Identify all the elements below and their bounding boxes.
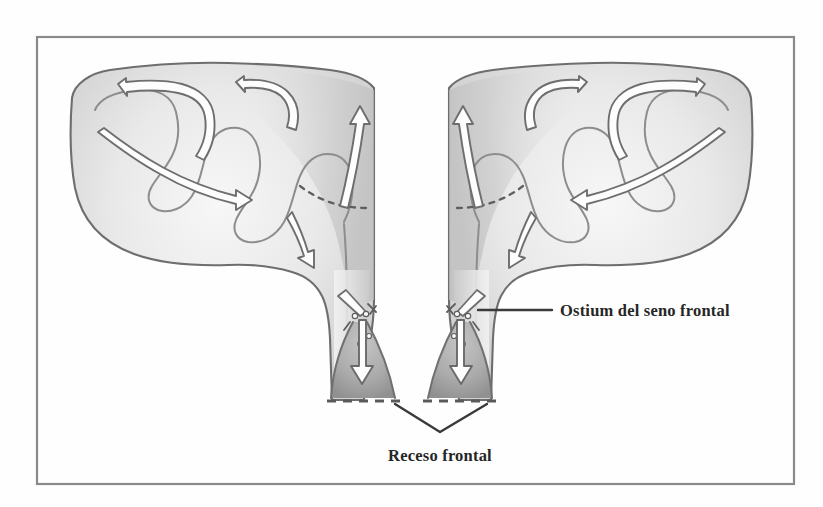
ostium-bead: [452, 334, 457, 339]
ostium-bead: [465, 313, 470, 318]
label-ostium-del-seno-frontal: Ostium del seno frontal: [560, 301, 730, 320]
frontal-sinus-diagram: Ostium del seno frontal Receso frontal: [0, 0, 823, 507]
ostium-bead: [454, 311, 459, 316]
label-receso-frontal: Receso frontal: [388, 446, 492, 465]
figure-container: Ostium del seno frontal Receso frontal: [0, 0, 823, 507]
ostium-bead: [352, 313, 357, 318]
ostium-bead: [367, 334, 372, 339]
ostium-bead: [363, 311, 368, 316]
